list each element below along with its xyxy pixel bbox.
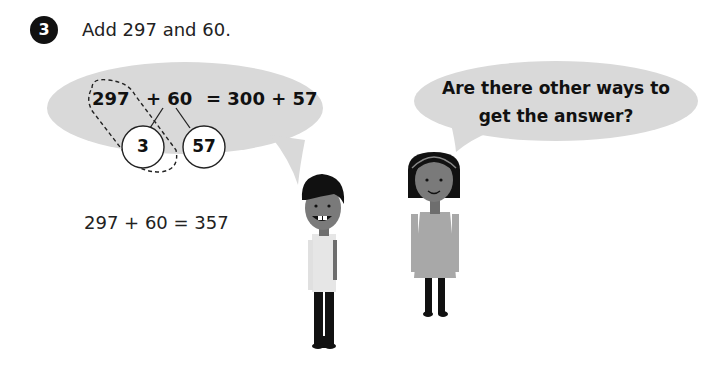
girl-question-text: Are there other ways to get the answer?: [420, 74, 692, 130]
girl-character: [408, 152, 460, 317]
part-label-57: 57: [184, 136, 224, 156]
part-label-3: 3: [123, 136, 163, 156]
question-prompt: Add 297 and 60.: [82, 19, 231, 40]
illustration: [0, 0, 710, 372]
working-term-plus-60: + 60: [146, 88, 192, 109]
girl-question-line-1: Are there other ways to: [420, 74, 692, 102]
working-speech-bubble: [47, 62, 323, 185]
working-result: = 300 + 57: [206, 88, 318, 109]
girl-question-line-2: get the answer?: [420, 102, 692, 130]
answer-equation: 297 + 60 = 357: [84, 212, 229, 233]
question-number-badge: 3: [30, 16, 58, 44]
working-term-297: 297: [92, 88, 130, 109]
boy-character: [302, 174, 344, 349]
